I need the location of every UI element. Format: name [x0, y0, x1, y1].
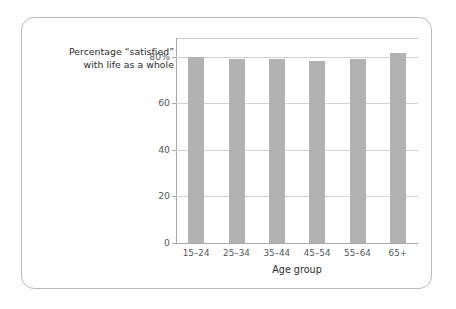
y-axis-line [176, 38, 177, 244]
plot-area: 020406080% 15–2425–3435–4445–5455–6465+ … [176, 38, 418, 244]
figure: Percentage “satisfied” with life as a wh… [0, 0, 456, 309]
y-axis-tick-label: 0 [164, 237, 170, 248]
y-axis-tick-mark [172, 150, 176, 151]
y-axis-tick-label: 40 [158, 144, 170, 155]
x-axis-title: Age group [176, 264, 418, 275]
gridline [176, 150, 418, 151]
gridline [176, 57, 418, 58]
x-axis-tick-label: 65+ [378, 248, 418, 258]
gridline [176, 103, 418, 104]
y-axis-tick-label: 80% [149, 51, 170, 62]
bar [229, 59, 245, 243]
bar [390, 53, 406, 243]
y-axis-tick-mark [172, 103, 176, 104]
y-axis-tick-label: 20 [158, 190, 170, 201]
y-axis-tick-mark [172, 196, 176, 197]
x-axis-tick-label: 45–54 [297, 248, 337, 258]
bar [269, 59, 285, 243]
x-axis-tick-label: 55–64 [337, 248, 377, 258]
bar [350, 59, 366, 243]
plot-top-border [176, 38, 418, 39]
bar [188, 57, 204, 243]
gridline [176, 196, 418, 197]
x-axis-line [176, 243, 418, 244]
y-axis-tick-mark [172, 243, 176, 244]
y-axis-tick-mark [172, 57, 176, 58]
x-axis-tick-label: 25–34 [216, 248, 256, 258]
x-axis-tick-label: 15–24 [176, 248, 216, 258]
x-axis-tick-label: 35–44 [257, 248, 297, 258]
bar [309, 61, 325, 243]
y-axis-tick-label: 60 [158, 97, 170, 108]
y-axis-tick-labels: 020406080% [136, 38, 170, 244]
